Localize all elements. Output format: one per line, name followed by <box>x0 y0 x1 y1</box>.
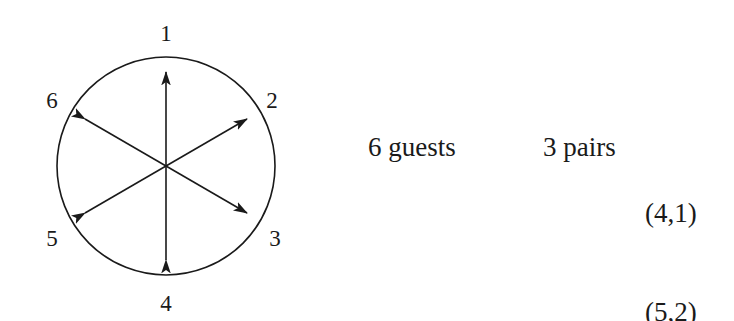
pair-item: (4,1) <box>645 197 697 230</box>
seat-label-3: 3 <box>269 226 281 251</box>
seat-label-4: 4 <box>160 291 172 316</box>
seat-label-2: 2 <box>266 88 278 113</box>
figure-root: 1 2 3 4 5 6 6 guests 3 pairs (4,1) (5,2)… <box>0 0 734 321</box>
table-diagram-svg: 1 2 3 4 5 6 <box>0 0 330 321</box>
pairs-list: (4,1) (5,2) (6,3) <box>645 131 697 321</box>
guests-count-label: 6 guests <box>368 131 456 164</box>
pair-item: (5,2) <box>645 296 697 321</box>
pairs-count-label: 3 pairs <box>543 131 616 164</box>
table-diagram: 1 2 3 4 5 6 <box>0 0 330 321</box>
seat-label-5: 5 <box>46 226 58 251</box>
seat-label-6: 6 <box>46 88 58 113</box>
seat-label-1: 1 <box>160 21 172 46</box>
annotation-block: 6 guests 3 pairs (4,1) (5,2) (6,3) <box>330 0 734 321</box>
